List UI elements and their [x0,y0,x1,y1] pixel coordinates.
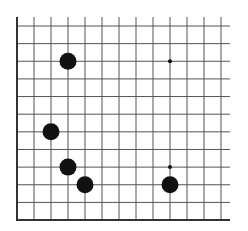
grid-lines [17,17,230,220]
star-point [168,165,172,169]
star-point [168,59,172,63]
stones [43,53,179,193]
go-board [0,0,248,231]
black-stone [77,176,94,193]
board-edges [16,17,230,221]
black-stone [162,176,179,193]
black-stone [60,53,77,70]
black-stone [60,159,77,176]
black-stone [43,123,60,140]
